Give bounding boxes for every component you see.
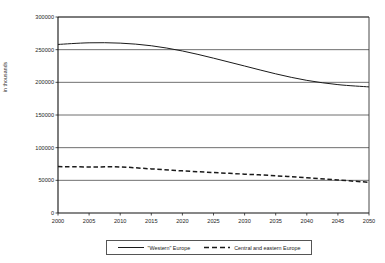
legend-entry: "Western" Europe [118,245,191,251]
legend-entry: Central and eastern Europe [204,245,300,251]
legend-label: Central and eastern Europe [234,245,300,251]
legend-line-swatch [204,245,230,250]
chart-legend: "Western" EuropeCentral and eastern Euro… [106,240,312,255]
line-chart: in thousands 050000100000150000200000250… [0,0,385,263]
x-tick-label: 2015 [145,218,157,224]
x-tick-label: 2010 [114,218,126,224]
x-tick-label: 2030 [238,218,250,224]
x-tick-label: 2040 [301,218,313,224]
x-tick-label: 2035 [269,218,281,224]
x-axis-tick-labels: 2000200520102015202020252030203520402045… [0,0,385,263]
x-tick-label: 2005 [83,218,95,224]
legend-label: "Western" Europe [148,245,191,251]
x-tick-label: 2050 [363,218,375,224]
x-tick-label: 2025 [207,218,219,224]
legend-line-swatch [118,245,144,250]
x-tick-label: 2000 [52,218,64,224]
x-tick-label: 2020 [176,218,188,224]
x-tick-label: 2045 [332,218,344,224]
